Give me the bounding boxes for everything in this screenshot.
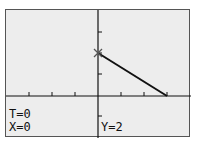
calculator-screen: T=0 X=0 Y=2	[5, 9, 190, 137]
graph-area	[6, 10, 191, 138]
trace-x-value: X=0	[9, 121, 31, 133]
trace-y-value: Y=2	[101, 121, 123, 133]
trace-t-value: T=0	[9, 108, 31, 120]
plot-line	[98, 53, 167, 96]
